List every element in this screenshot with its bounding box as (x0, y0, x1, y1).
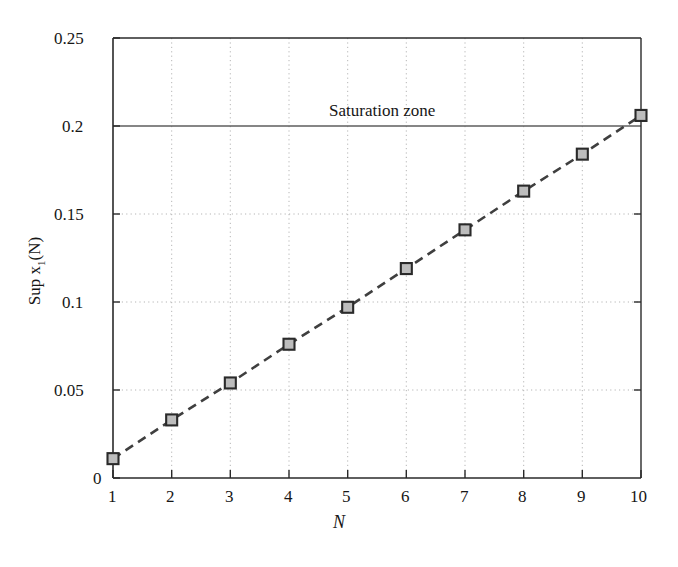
data-point-marker-2 (166, 414, 177, 425)
xtick-label-8: 8 (518, 488, 527, 505)
xtick-label-4: 4 (284, 488, 293, 505)
ytick-label-0: 0 (93, 470, 102, 487)
data-point-marker-9 (577, 149, 588, 160)
xtick-label-6: 6 (401, 488, 410, 505)
x-axis-label: N (0, 512, 678, 533)
xtick-label-5: 5 (342, 488, 351, 505)
data-point-marker-8 (518, 186, 529, 197)
ytick-label-0.05: 0.05 (54, 382, 84, 399)
data-point-marker-6 (401, 263, 412, 274)
xtick-label-9: 9 (577, 488, 586, 505)
xtick-label-7: 7 (460, 488, 469, 505)
saturation-zone-annotation: Saturation zone (329, 101, 435, 121)
y-axis-label-suffix: (N) (25, 237, 44, 261)
y-axis-label-subscript: 1 (35, 260, 47, 266)
y-axis-label-text: Sup x1(N) (25, 237, 46, 305)
data-point-marker-4 (284, 339, 295, 350)
xtick-label-10: 10 (630, 488, 647, 505)
ytick-label-0.1: 0.1 (62, 294, 83, 311)
y-axis-label-prefix: Sup x (25, 266, 44, 305)
data-point-marker-10 (636, 110, 647, 121)
data-point-marker-5 (342, 302, 353, 313)
y-axis-label: Sup x1(N) (24, 176, 48, 366)
data-point-marker-3 (225, 377, 236, 388)
ytick-label-0.25: 0.25 (54, 30, 84, 47)
xtick-label-2: 2 (166, 488, 175, 505)
chart-figure (0, 0, 678, 567)
ytick-label-0.15: 0.15 (54, 206, 84, 223)
data-point-marker-1 (108, 453, 119, 464)
ytick-label-0.2: 0.2 (62, 118, 83, 135)
xtick-label-3: 3 (225, 488, 234, 505)
xtick-label-1: 1 (108, 488, 117, 505)
data-point-marker-7 (460, 224, 471, 235)
